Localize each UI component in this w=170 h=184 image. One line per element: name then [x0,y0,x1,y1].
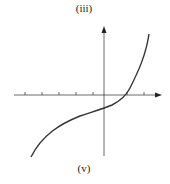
function-graph [0,0,170,184]
function-curve [31,34,149,157]
x-axis [14,92,162,98]
x-axis-arrow-icon [155,93,162,98]
figure-label-bottom: (v) [64,162,104,174]
y-axis-arrow-icon [102,26,107,33]
y-axis [102,26,107,156]
